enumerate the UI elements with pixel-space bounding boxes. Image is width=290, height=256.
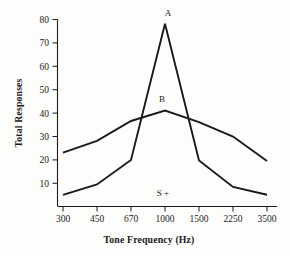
x-tick-label: 1000 [156, 214, 175, 224]
series-b-label: B [159, 94, 165, 104]
y-tick-label: 40 [40, 109, 50, 119]
x-tick-label: 450 [90, 214, 105, 224]
y-tick-label: 70 [40, 38, 50, 48]
y-tick-label: 30 [40, 132, 50, 142]
chart-figure: 80 70 60 50 40 30 20 10 300 450 670 1000… [0, 0, 290, 256]
y-tick-label: 60 [40, 62, 50, 72]
y-tick-label: 50 [40, 85, 50, 95]
y-axis-title: Total Responses [13, 78, 24, 147]
y-tick-label: 20 [40, 155, 50, 165]
x-axis-ticks [63, 207, 267, 212]
tone-frequency-response-chart: 80 70 60 50 40 30 20 10 300 450 670 1000… [0, 0, 290, 256]
x-axis-tick-labels: 300 450 670 1000 1500 2250 3500 [56, 214, 277, 224]
y-tick-label: 10 [40, 179, 50, 189]
x-tick-label: 670 [124, 214, 139, 224]
x-tick-label: 300 [56, 214, 71, 224]
axes [58, 20, 278, 207]
x-tick-label: 3500 [258, 214, 277, 224]
x-tick-label: 1500 [190, 214, 209, 224]
series-line-b [63, 111, 267, 162]
series-line-a [63, 24, 267, 195]
y-axis-ticks [53, 20, 58, 184]
x-axis-title: Tone Frequency (Hz) [103, 234, 194, 246]
x-tick-label: 2250 [224, 214, 243, 224]
y-axis-tick-labels: 80 70 60 50 40 30 20 10 [40, 15, 50, 189]
series-a-label: A [165, 8, 172, 18]
s-plus-label: S + [157, 188, 169, 198]
y-tick-label: 80 [40, 15, 50, 25]
